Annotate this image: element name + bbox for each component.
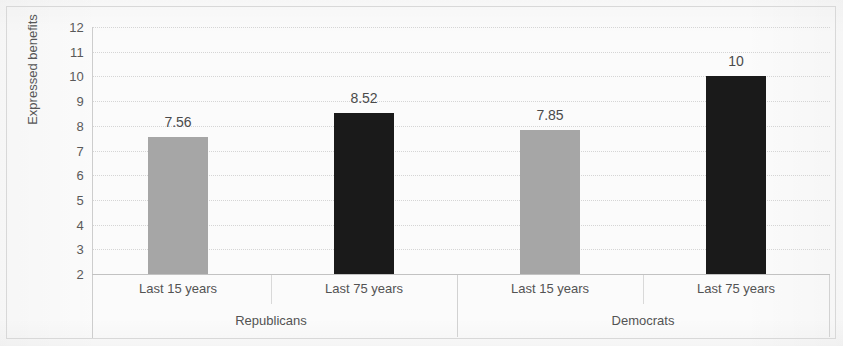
- group-separator: [829, 275, 830, 337]
- category-axis: Last 15 yearsLast 75 yearsLast 15 yearsL…: [92, 274, 830, 338]
- y-axis-tick-label: 10: [44, 69, 84, 84]
- category-label: Last 15 years: [86, 274, 270, 304]
- category-separator: [271, 275, 272, 304]
- y-axis-tick-label: 8: [44, 118, 84, 133]
- bar-chart: Expressed benefits 12111098765432 7.568.…: [0, 0, 843, 346]
- y-axis-tick-label: 12: [44, 20, 84, 35]
- plot-area: 7.568.527.8510: [92, 27, 830, 274]
- bar-value-label: 8.52: [350, 90, 377, 106]
- y-axis-tick-label: 5: [44, 192, 84, 207]
- y-axis-tick-label: 4: [44, 217, 84, 232]
- bar[interactable]: [334, 113, 394, 274]
- y-axis-tick-label: 7: [44, 143, 84, 158]
- y-axis-tick-label: 6: [44, 168, 84, 183]
- y-axis-tick-label: 9: [44, 94, 84, 109]
- bar-value-label: 7.85: [536, 107, 563, 123]
- gridline: [92, 27, 830, 28]
- y-axis-tick-label: 11: [44, 44, 84, 59]
- category-label: Last 75 years: [272, 274, 456, 304]
- bar-value-label: 7.56: [164, 114, 191, 130]
- y-axis-title: Expressed benefits: [25, 0, 40, 160]
- group-separator: [457, 275, 458, 337]
- bar[interactable]: [520, 130, 580, 274]
- bar-value-label: 10: [728, 53, 744, 69]
- y-axis-tick-labels: 12111098765432: [40, 27, 84, 274]
- category-label: Last 75 years: [644, 274, 828, 304]
- bar[interactable]: [148, 137, 208, 274]
- y-axis-tick-label: 3: [44, 242, 84, 257]
- group-label: Republicans: [121, 306, 421, 336]
- category-separator: [643, 275, 644, 304]
- group-label: Democrats: [493, 306, 793, 336]
- gridline: [92, 52, 830, 53]
- bar[interactable]: [706, 76, 766, 274]
- y-axis-tick-label: 2: [44, 267, 84, 282]
- category-label: Last 15 years: [458, 274, 642, 304]
